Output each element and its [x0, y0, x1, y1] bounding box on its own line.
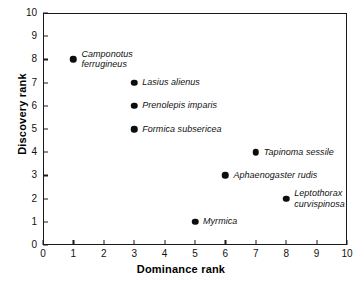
y-tick-7: [43, 82, 48, 83]
x-tick-label-9: 9: [302, 248, 332, 260]
data-point-label: Lasius alienus: [142, 77, 200, 88]
x-tick-4: [164, 240, 165, 245]
x-tick-label-6: 6: [210, 248, 240, 260]
data-point-label: Myrmica: [203, 216, 237, 227]
data-point: [70, 56, 77, 63]
y-tick-2: [43, 198, 48, 199]
x-tick-6: [225, 240, 226, 245]
data-point: [131, 79, 138, 86]
x-tick-label-1: 1: [58, 248, 88, 260]
y-tick-5: [43, 129, 48, 130]
y-tick-4: [43, 152, 48, 153]
x-tick-5: [195, 240, 196, 245]
x-axis-title: Dominance rank: [0, 263, 362, 275]
y-tick-label-10: 10: [13, 7, 37, 18]
scatter-chart-figure: 012345678910 012345678910 Camponotus fer…: [0, 0, 362, 288]
x-tick-1: [73, 240, 74, 245]
x-tick-label-2: 2: [89, 248, 119, 260]
x-tick-3: [134, 240, 135, 245]
x-tick-label-3: 3: [119, 248, 149, 260]
x-tick-8: [286, 240, 287, 245]
x-tick-9: [316, 240, 317, 245]
y-tick-9: [43, 36, 48, 37]
data-point: [131, 103, 138, 110]
data-point: [222, 172, 229, 179]
y-tick-label-0: 0: [13, 239, 37, 250]
x-tick-label-10: 10: [332, 248, 362, 260]
data-point-label: Tapinoma sessile: [264, 147, 334, 158]
data-point-label: Leptothorax curvispinosa: [294, 188, 345, 209]
x-tick-label-7: 7: [241, 248, 271, 260]
data-point-label: Camponotus ferrugineus: [81, 49, 133, 70]
y-tick-3: [43, 175, 48, 176]
x-tick-7: [255, 240, 256, 245]
y-tick-6: [43, 105, 48, 106]
x-tick-2: [103, 240, 104, 245]
x-tick-10: [347, 240, 348, 245]
y-tick-8: [43, 59, 48, 60]
y-tick-label-1: 1: [13, 216, 37, 227]
data-point: [283, 195, 290, 202]
data-point: [192, 219, 199, 226]
data-point-label: Formica subsericea: [142, 124, 221, 135]
y-tick-label-2: 2: [13, 193, 37, 204]
data-point-label: Prenolepis imparis: [142, 100, 217, 111]
data-point: [131, 126, 138, 133]
y-tick-10: [43, 13, 48, 14]
x-tick-label-8: 8: [271, 248, 301, 260]
x-tick-label-4: 4: [150, 248, 180, 260]
x-tick-label-5: 5: [180, 248, 210, 260]
data-point-label: Aphaenogaster rudis: [233, 170, 317, 181]
y-tick-1: [43, 221, 48, 222]
data-point: [253, 149, 260, 156]
y-axis-title: Discovery rank: [16, 39, 28, 189]
y-tick-0: [43, 245, 48, 246]
